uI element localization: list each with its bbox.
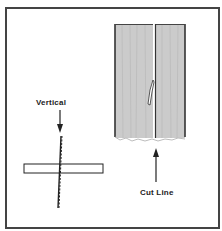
vertical-arrow	[57, 110, 63, 133]
wood-panel	[115, 24, 185, 141]
saw-table	[24, 164, 103, 173]
vertical-label: Vertical	[36, 98, 66, 107]
cut-line-label: Cut Line	[140, 188, 174, 197]
diagram-canvas	[0, 0, 222, 231]
cut-line-arrow	[153, 148, 159, 182]
